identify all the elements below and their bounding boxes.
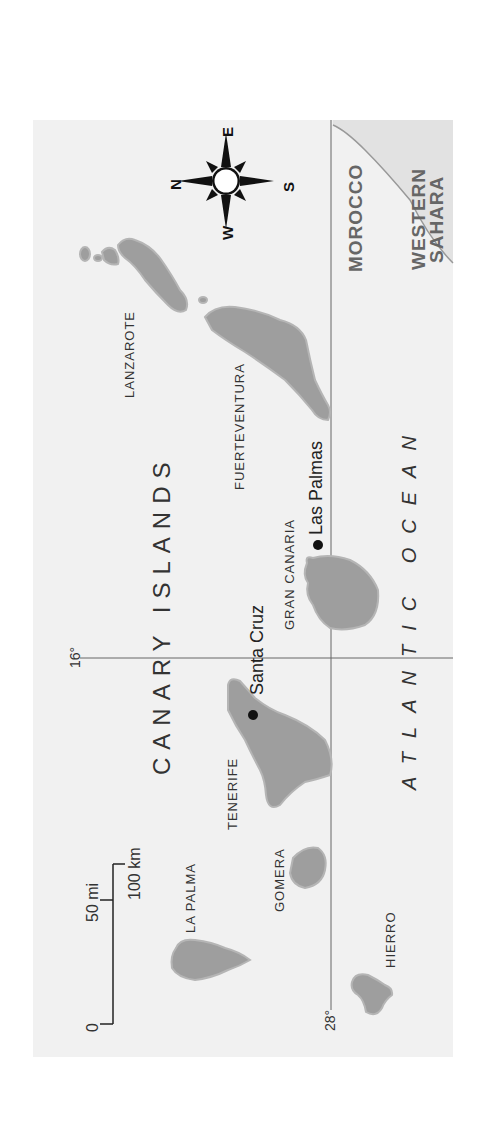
island-gomera[interactable] xyxy=(290,847,326,888)
compass-s: S xyxy=(280,182,297,192)
ocean-label: ATLANTIC OCEAN xyxy=(398,422,421,790)
island-label-gomera: GOMERA xyxy=(272,848,287,912)
island-label-hierro: HIERRO xyxy=(383,911,398,968)
island-label-lanzarote: LANZAROTE xyxy=(122,311,137,398)
island-label-la-palma: LA PALMA xyxy=(183,863,198,933)
city-label-las-palmas: Las Palmas xyxy=(306,441,327,535)
island-label-tenerife: TENERIFE xyxy=(225,758,240,830)
parallel-label: 28° xyxy=(322,1010,338,1031)
island-fuerteventura[interactable] xyxy=(205,307,330,420)
island-hierro[interactable] xyxy=(352,974,393,1014)
scale-label-miles: 50 mi xyxy=(84,883,102,922)
island-gran-canaria[interactable] xyxy=(305,556,379,630)
country-label-morocco: MOROCCO xyxy=(347,164,365,272)
city-label-santa-cruz: Santa Cruz xyxy=(247,605,268,695)
compass-e: E xyxy=(219,127,236,137)
compass-n: N xyxy=(167,179,184,190)
island-la-palma[interactable] xyxy=(172,940,251,980)
island-label-gran-canaria: GRAN CANARIA xyxy=(282,519,297,630)
compass-rose xyxy=(178,133,274,229)
scale-label-zero: 0 xyxy=(84,1023,102,1032)
compass-w: W xyxy=(219,226,236,240)
island-lanzarote[interactable] xyxy=(80,239,207,312)
island-label-fuerteventura: FUERTEVENTURA xyxy=(232,363,247,490)
scale-label-km: 100 km xyxy=(126,848,144,900)
city-marker-santa-cruz[interactable] xyxy=(248,710,258,720)
island-tenerife[interactable] xyxy=(228,679,332,807)
meridian-label: 16° xyxy=(67,647,83,668)
city-marker-las-palmas[interactable] xyxy=(313,540,323,550)
country-label-sahara: SAHARA xyxy=(428,176,446,263)
scale-bar xyxy=(100,864,125,1024)
region-label: CANARY ISLANDS xyxy=(148,454,176,775)
